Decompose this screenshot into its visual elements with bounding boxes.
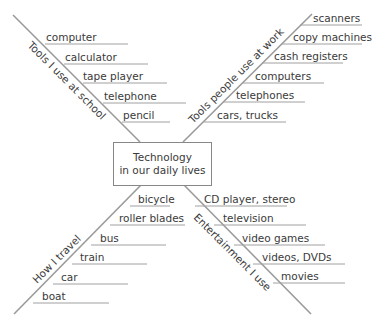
item-travel-5: boat (42, 290, 66, 302)
item-ent-1: television (223, 212, 274, 224)
item-ent-4: movies (281, 270, 319, 282)
item-work-4: telephones (236, 89, 294, 101)
central-topic-line1: Technology (133, 151, 192, 164)
item-work-0: scanners (313, 12, 360, 24)
item-travel-3: train (80, 251, 104, 263)
item-ent-2: video games (242, 232, 309, 244)
item-ent-0: CD player, stereo (204, 193, 295, 205)
item-work-3: computers (255, 70, 311, 82)
item-work-2: cash registers (274, 50, 348, 62)
spine-travel (14, 185, 141, 314)
item-school-3: telephone (104, 90, 157, 102)
item-work-5: cars, trucks (217, 109, 278, 121)
item-ent-3: videos, DVDs (262, 251, 331, 263)
central-topic-box: Technology in our daily lives (113, 142, 212, 186)
item-work-1: copy machines (293, 31, 372, 43)
item-travel-0: bicycle (138, 193, 175, 205)
item-travel-2: bus (100, 232, 119, 244)
item-school-4: pencil (123, 109, 154, 121)
item-travel-1: roller blades (119, 212, 184, 224)
item-school-1: calculator (65, 51, 117, 63)
central-topic-line2: in our daily lives (119, 164, 205, 177)
item-travel-4: car (61, 271, 78, 283)
item-school-0: computer (46, 31, 97, 43)
item-school-2: tape player (83, 70, 144, 82)
